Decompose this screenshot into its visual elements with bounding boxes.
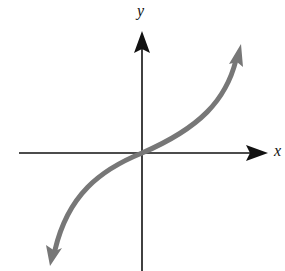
x-axis-label: x [274,142,281,160]
graph-svg [0,0,285,271]
y-axis-label: y [137,2,144,20]
graph-canvas: y x [0,0,285,271]
function-curve [46,44,243,266]
